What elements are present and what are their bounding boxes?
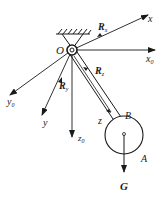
z0-axis-label: z0 [77,133,85,144]
rz-arrow-line [74,56,111,112]
x-axis [72,15,148,50]
pivot-inner [70,48,74,52]
gravity-label: G [120,180,128,192]
x0-axis-label: x0 [145,53,153,65]
point-a-label: A [140,153,148,164]
reaction-z-label: Rz [94,65,105,77]
pendulum-rod [69,49,123,122]
point-b-label: B [125,110,131,121]
y-axis-label: y [42,117,48,128]
z-axis-label: z [97,115,102,126]
y0-axis-label: y0 [6,96,14,108]
origin-label: O [56,44,64,56]
pendulum-diagram: O x x0 y0 y z0 z B A G Rx Rz Ry [0,0,161,201]
x-axis-label: x [147,13,153,24]
y-axis [42,50,72,115]
reaction-x-label: Rx [97,21,108,33]
